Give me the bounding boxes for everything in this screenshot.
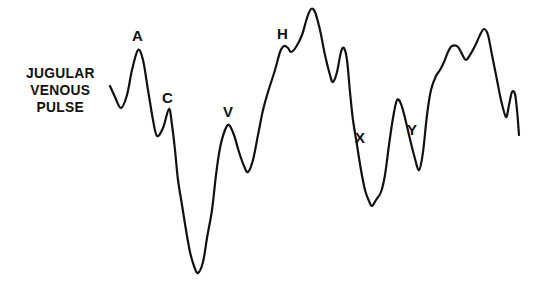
wave-label-h: H bbox=[277, 26, 288, 41]
jugular-venous-pulse-diagram: JUGULAR VENOUS PULSE A C V H X Y bbox=[0, 0, 538, 299]
wave-label-y: Y bbox=[407, 122, 417, 137]
diagram-title: JUGULAR VENOUS PULSE bbox=[18, 64, 103, 115]
title-line-pulse: PULSE bbox=[18, 98, 103, 115]
wave-label-x: X bbox=[355, 130, 365, 145]
waveform-trace bbox=[0, 0, 538, 299]
title-line-jugular: JUGULAR bbox=[18, 64, 103, 81]
wave-label-c: C bbox=[162, 90, 173, 105]
wave-label-v: V bbox=[223, 104, 233, 119]
title-line-venous: VENOUS bbox=[18, 81, 103, 98]
jvp-waveform-line bbox=[110, 9, 519, 274]
wave-label-a: A bbox=[132, 28, 143, 43]
